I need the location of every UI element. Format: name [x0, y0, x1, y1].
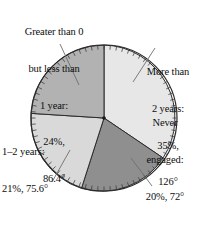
label-line: Greater than 0: [2, 26, 106, 38]
label-line: 21%, 75.6°: [2, 183, 92, 195]
label-line: engaged:: [128, 154, 202, 166]
label-line: 20%, 72°: [128, 191, 202, 203]
label-line: 1–2 years:: [2, 146, 92, 158]
slice-label-never-engaged: Never engaged: 20%, 72°: [128, 93, 202, 215]
label-line: Never: [128, 117, 202, 129]
slice-label-1-2-years: 1–2 years: 21%, 75.6°: [2, 122, 92, 207]
label-line: but less than: [2, 63, 106, 75]
label-line: 1 year:: [2, 100, 106, 112]
label-line: More than: [132, 66, 204, 78]
